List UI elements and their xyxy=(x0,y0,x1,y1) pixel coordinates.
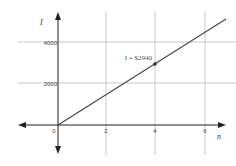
x-tick-0: 0 xyxy=(52,128,56,134)
annotation-label: I = $2940 xyxy=(125,54,153,62)
x-tick-6: 6 xyxy=(203,128,207,134)
x-tick-4: 4 xyxy=(153,128,157,134)
x-tick-2: 2 xyxy=(104,128,108,134)
x-axis-label: n xyxy=(217,132,221,141)
arrow-left-icon xyxy=(18,122,26,128)
series-line-I xyxy=(58,19,226,125)
y-tick-2000: 2000 xyxy=(44,81,58,87)
chart: 4000 2000 0 2 4 6 I n I = $2940 xyxy=(0,0,236,166)
arrow-right-icon xyxy=(218,122,226,128)
y-tick-4000: 4000 xyxy=(44,40,58,46)
arrow-up-icon xyxy=(55,12,61,20)
y-axis-label: I xyxy=(39,18,43,27)
data-point-n4 xyxy=(153,62,157,66)
arrow-down-icon xyxy=(55,146,61,154)
x-axis xyxy=(18,122,226,128)
